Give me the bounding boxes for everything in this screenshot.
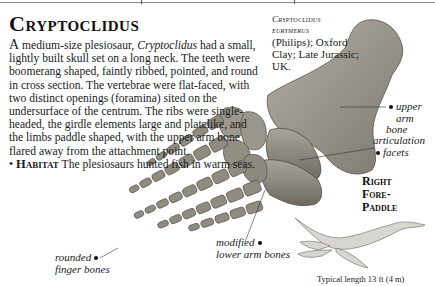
habitat-heading: Habitat: [16, 157, 59, 171]
label-articulation-facets: articulation facets: [373, 135, 425, 158]
genus-name: Cryptoclidus: [137, 39, 197, 52]
lead-letter: A: [9, 37, 19, 52]
label-lower-arm-bones: modified lower arm bones: [216, 237, 290, 260]
specimen-caption: Cryptoclidus eurymerus (Philips); Oxford…: [272, 14, 362, 72]
pointer-dot-icon: [258, 241, 262, 245]
habitat-text: The plesiosaurs hunted fish in warm seas…: [59, 158, 255, 171]
paddle-title: Right Fore- Paddle: [362, 175, 397, 214]
label-upper-arm-bone: upper arm bone: [386, 101, 435, 136]
plesiosaur-silhouette: [295, 218, 425, 268]
typical-length: Typical length 13 ft (4 m): [317, 274, 404, 284]
description-text: A medium-size plesiosaur, Cryptoclidus h…: [9, 38, 259, 171]
pointer-dot-icon: [94, 256, 98, 260]
habitat-bullet: •: [9, 158, 13, 171]
pointer-dot-icon: [376, 151, 380, 155]
label-finger-bones: rounded finger bones: [55, 252, 110, 275]
page-title: Cryptoclidus: [9, 13, 139, 35]
pointer-dot-icon: [389, 105, 393, 109]
